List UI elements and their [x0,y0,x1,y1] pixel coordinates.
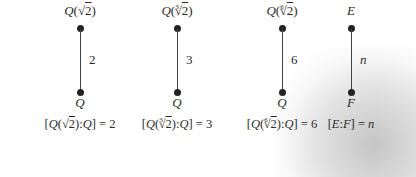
degree-equation: [E:F] = n [328,117,375,132]
degree-label: 6 [291,52,298,68]
bottom-field-label: F [347,95,355,111]
degree-label: 3 [186,52,193,68]
degree-equation: [Q(√2):Q] = 2 [45,117,116,132]
bottom-field-label: Q [75,95,84,111]
tower-general: E n F [E:F] = n [306,0,396,137]
degree-label: n [360,52,367,68]
bottom-field-label: Q [277,95,286,111]
tower-cbrt2: Q(3√2) 3 Q [Q(3√2):Q] = 3 [132,0,222,137]
bottom-field-label: Q [172,95,181,111]
degree-label: 2 [89,52,96,68]
top-field-label: Q(3√2) [161,3,192,19]
top-field-label: Q(6√2) [266,3,297,19]
degree-equation: [Q(3√2):Q] = 3 [142,117,212,132]
tower-sqrt2: Q(√2) 2 Q [Q(√2):Q] = 2 [35,0,125,137]
extension-edge [80,29,81,92]
top-field-label: Q(√2) [64,3,96,19]
extension-edge [282,29,283,92]
extension-edge [351,29,352,92]
top-field-label: E [347,3,355,19]
extension-edge [177,29,178,92]
